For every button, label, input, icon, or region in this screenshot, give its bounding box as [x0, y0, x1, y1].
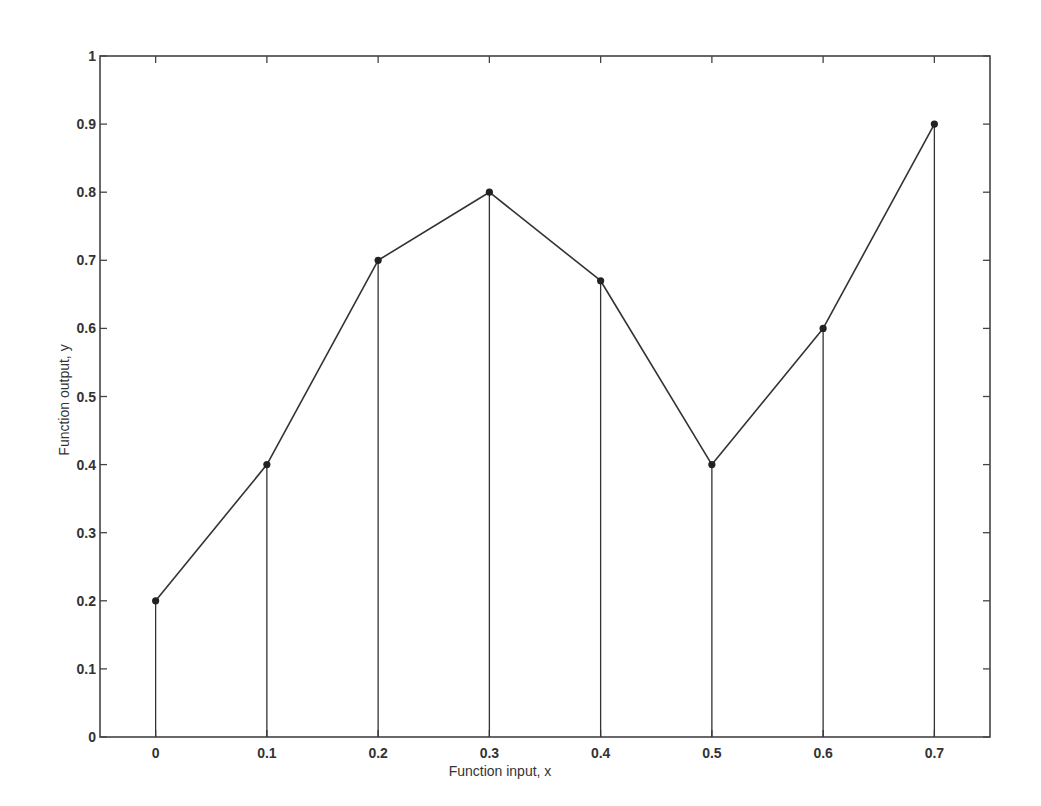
y-tick-label: 0.4: [77, 457, 97, 473]
chart: 00.10.20.30.40.50.60.7 00.10.20.30.40.50…: [0, 0, 1041, 806]
y-tick-label: 0.3: [77, 525, 97, 541]
data-point-marker: [708, 461, 715, 468]
x-tick-label: 0.6: [813, 745, 833, 761]
data-point-marker: [375, 257, 382, 264]
y-axis-label: Function output, y: [56, 344, 72, 455]
y-tick-label: 0: [88, 729, 96, 745]
plot-frame: [100, 56, 990, 737]
data-point-marker: [820, 325, 827, 332]
data-point-marker: [597, 277, 604, 284]
connecting-line: [156, 124, 935, 601]
x-tick-label: 0.5: [702, 745, 722, 761]
x-tick-label: 0.1: [257, 745, 277, 761]
x-tick-label: 0: [152, 745, 160, 761]
y-tick-label: 0.9: [77, 116, 97, 132]
y-tick-label: 0.1: [77, 661, 97, 677]
data-point-marker: [486, 189, 493, 196]
data-point-marker: [263, 461, 270, 468]
x-tick-label: 0.4: [591, 745, 611, 761]
y-tick-label: 1: [88, 48, 96, 64]
y-tick-label: 0.5: [77, 389, 97, 405]
stem-lines: [156, 124, 935, 737]
x-tick-label: 0.2: [368, 745, 388, 761]
y-tick-label: 0.7: [77, 252, 97, 268]
y-tick-label: 0.8: [77, 184, 97, 200]
y-tick-label: 0.2: [77, 593, 97, 609]
y-axis-ticks: 00.10.20.30.40.50.60.70.80.91: [77, 48, 990, 745]
plot-area-border: [100, 56, 990, 737]
data-markers: [152, 121, 938, 605]
y-tick-label: 0.6: [77, 320, 97, 336]
data-point-marker: [152, 597, 159, 604]
series-line: [156, 124, 935, 601]
x-tick-label: 0.7: [925, 745, 945, 761]
x-tick-label: 0.3: [480, 745, 500, 761]
x-axis-label: Function input, x: [449, 763, 552, 779]
data-point-marker: [931, 121, 938, 128]
x-axis-ticks: 00.10.20.30.40.50.60.7: [152, 56, 945, 761]
